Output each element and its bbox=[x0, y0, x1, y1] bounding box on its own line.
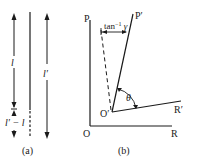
length-l-prime-dimension: l′ bbox=[43, 13, 50, 139]
label-r: R bbox=[171, 128, 178, 139]
shear-angle-indicator: tan−1 γ bbox=[101, 21, 128, 35]
label-p-prime: P′ bbox=[135, 10, 143, 21]
label-p: P bbox=[84, 13, 90, 24]
theta-label: θ bbox=[126, 92, 131, 103]
length-l-dimension: l l′ − l bbox=[5, 13, 25, 138]
strain-diagram: l l′ − l l′ (a) P O bbox=[0, 0, 203, 162]
arrow-up-icon bbox=[12, 110, 17, 116]
arrow-up-icon bbox=[12, 13, 17, 20]
length-l-label: l bbox=[11, 57, 14, 68]
theta-angle-indicator: θ bbox=[117, 88, 138, 109]
arrow-down-icon bbox=[12, 102, 17, 108]
original-direction-dashed bbox=[101, 30, 111, 110]
label-o: O bbox=[83, 128, 90, 139]
panel-a: l l′ − l l′ (a) bbox=[5, 12, 50, 157]
diagram-canvas: l l′ − l l′ (a) P O bbox=[0, 0, 203, 162]
length-l-prime-label: l′ bbox=[43, 68, 49, 79]
difference-label: l′ − l bbox=[5, 117, 25, 128]
arrow-up-icon bbox=[45, 13, 50, 20]
shear-angle-label: tan−1 γ bbox=[104, 21, 128, 31]
axis-or-prime bbox=[112, 101, 181, 112]
arrow-down-icon bbox=[45, 132, 50, 139]
label-r-prime: R′ bbox=[174, 104, 183, 115]
label-o-prime: O′ bbox=[100, 108, 109, 119]
panel-b-caption: (b) bbox=[118, 145, 130, 157]
panel-a-caption: (a) bbox=[22, 145, 33, 157]
panel-b: P O R P′ O′ R′ tan−1 γ θ bbox=[83, 10, 183, 157]
